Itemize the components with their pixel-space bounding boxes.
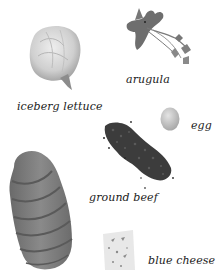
ground-beef-image <box>101 118 177 190</box>
blue-cheese-image <box>101 228 137 272</box>
iceberg-lettuce-image <box>26 22 82 92</box>
iceberg-lettuce-label: iceberg lettuce <box>17 100 103 113</box>
ground-beef-label: ground beef <box>89 191 158 204</box>
ingredients-illustration: iceberg lettuce arugula e <box>0 0 217 275</box>
arugula-label: arugula <box>126 73 170 86</box>
arugula-image <box>119 2 195 68</box>
blue-cheese-label: blue cheese <box>148 254 215 267</box>
bread-image <box>4 145 74 271</box>
egg-label: egg <box>191 119 212 132</box>
